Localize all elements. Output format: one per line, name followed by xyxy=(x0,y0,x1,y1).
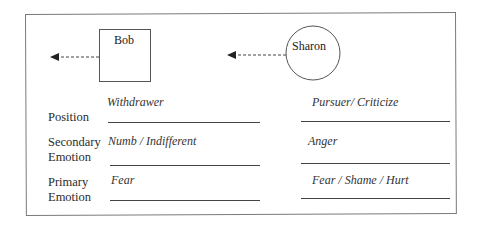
bob-primary-line xyxy=(110,200,260,201)
sharon-arrow-icon xyxy=(227,51,286,59)
sharon-secondary-value: Anger xyxy=(308,134,337,149)
bob-position-value: Withdrawer xyxy=(107,95,164,110)
sharon-label: Sharon xyxy=(292,39,326,54)
sharon-position-value: Pursuer/ Criticize xyxy=(312,95,398,110)
primary-label-line1: Primary xyxy=(48,175,88,190)
sharon-primary-value: Fear / Shame / Hurt xyxy=(312,173,409,188)
secondary-label-line2: Emotion xyxy=(48,150,91,165)
bob-label: Bob xyxy=(114,33,134,48)
primary-label-line2: Emotion xyxy=(48,190,91,205)
bob-secondary-line xyxy=(110,165,260,166)
sharon-primary-line xyxy=(301,198,450,199)
sharon-secondary-line xyxy=(301,163,450,164)
bob-secondary-value: Numb / Indifferent xyxy=(108,134,196,149)
bob-primary-value: Fear xyxy=(111,173,134,188)
position-label: Position xyxy=(48,110,89,125)
bob-arrow-icon xyxy=(50,53,99,61)
bob-position-line xyxy=(108,122,260,123)
secondary-label-line1: Secondary xyxy=(48,135,101,150)
sharon-position-line xyxy=(301,121,450,122)
